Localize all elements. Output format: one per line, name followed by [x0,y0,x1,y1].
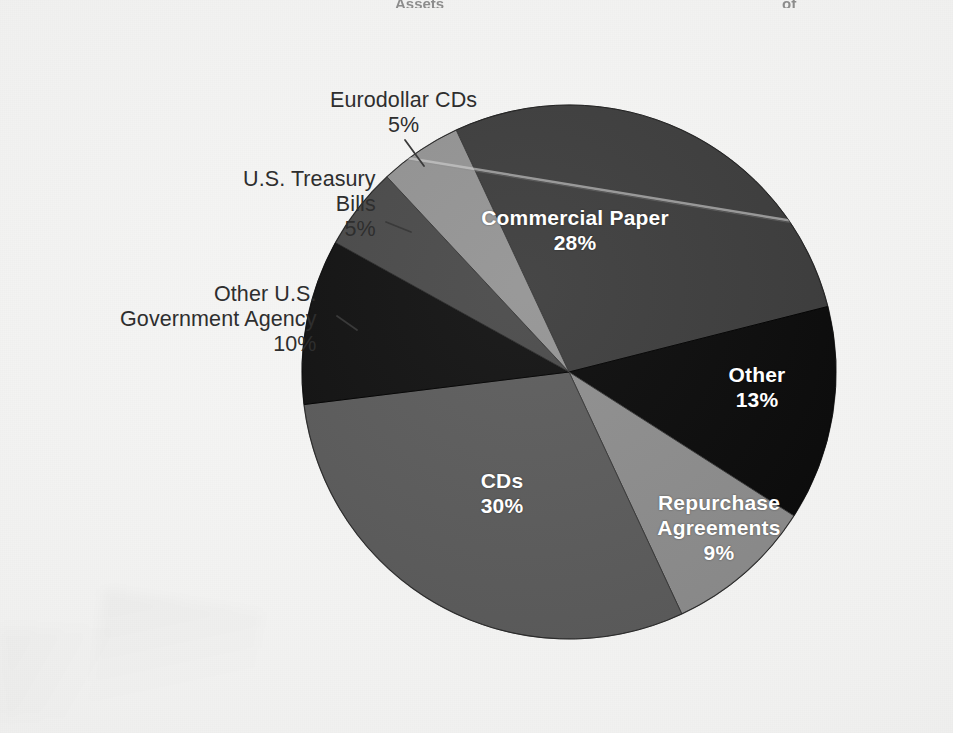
slice-label-commercial-paper-text: Commercial Paper [481,206,669,229]
callout-us-treasury-bills: U.S. Treasury Bills 5% [243,167,376,242]
chart-page: Assets of Money Market [0,0,953,733]
callout-eurodollar-cds-label: Eurodollar CDs [330,88,477,112]
slice-label-repurchase-agreements-line2: Agreements [657,516,780,539]
slice-label-cds-text: CDs [481,469,524,492]
callout-other-us-government-agency-label-line1: Other U.S. [214,282,317,306]
slice-label-commercial-paper: Commercial Paper 28% [470,205,680,255]
callout-other-us-government-agency-label-line2: Government Agency [120,307,317,332]
slice-label-other-percent: 13% [736,388,779,411]
callout-other-us-government-agency: Other U.S. Government Agency 10% [120,282,317,357]
callout-us-treasury-bills-label-line1: U.S. Treasury [243,167,376,191]
callout-eurodollar-cds: Eurodollar CDs 5% [330,88,477,138]
slice-label-repurchase-agreements-percent: 9% [704,541,735,564]
slice-label-repurchase-agreements: Repurchase Agreements 9% [634,490,804,565]
callout-other-us-government-agency-percent: 10% [120,332,317,357]
callout-us-treasury-bills-label-line2: Bills [243,192,376,217]
callout-eurodollar-cds-percent: 5% [330,113,477,138]
slice-label-other: Other 13% [702,362,812,412]
slice-label-repurchase-agreements-line1: Repurchase [658,491,780,514]
slice-label-cds-percent: 30% [481,494,524,517]
slice-label-cds: CDs 30% [447,468,557,518]
callout-us-treasury-bills-percent: 5% [243,217,376,242]
slice-label-commercial-paper-percent: 28% [554,231,597,254]
pie-chart: Eurodollar CDs 5% U.S. Treasury Bills 5%… [0,0,953,733]
slice-label-other-text: Other [728,363,785,386]
